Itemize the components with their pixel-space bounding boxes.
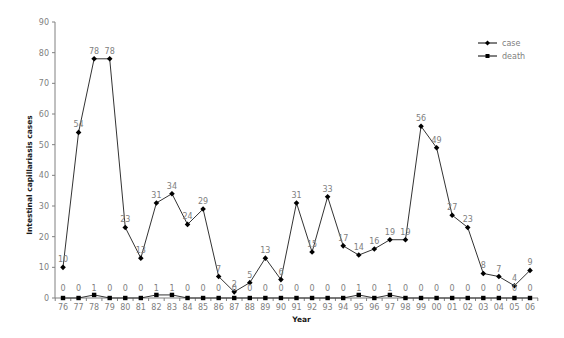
data-point-death [216,296,220,300]
data-point-case [60,265,66,271]
data-point-death [481,296,485,300]
data-point-death [325,296,329,300]
data-label-case: 56 [416,114,426,123]
data-point-death [154,293,158,297]
data-point-death [294,296,298,300]
data-point-case [294,200,300,206]
series-case: 1054787823133134242972513631153317141619… [58,47,533,295]
line-chart: 0102030405060708090 76777879808182838485… [0,0,564,338]
data-label-death: 0 [496,284,501,293]
x-tick-label: 94 [338,303,348,312]
y-axis-title: Intestinal capillariasis cases [25,115,34,235]
data-point-death [185,296,189,300]
x-tick-label: 98 [400,303,410,312]
data-label-death: 1 [356,284,361,293]
square-marker-icon [486,54,490,58]
series-death: 0010001100000000000101000000000 [60,284,532,300]
data-point-death [528,296,532,300]
x-tick-label: 80 [120,303,130,312]
x-tick-label: 01 [447,303,457,312]
data-label-case: 29 [198,197,208,206]
data-label-death: 0 [107,284,112,293]
x-tick-label: 83 [167,303,177,312]
x-tick-label: 04 [494,303,504,312]
data-point-death [232,296,236,300]
data-label-death: 0 [325,284,330,293]
data-point-death [434,296,438,300]
data-label-case: 23 [120,215,130,224]
data-label-case: 15 [307,240,317,249]
data-label-case: 7 [496,265,501,274]
x-tick-label: 77 [73,303,83,312]
y-tick-label: 70 [39,79,49,88]
data-point-death [61,296,65,300]
data-label-case: 13 [136,246,146,255]
data-point-death [341,296,345,300]
data-point-death [310,296,314,300]
data-point-death [92,293,96,297]
data-label-death: 1 [154,284,159,293]
data-point-case [169,191,175,197]
series-line-case [63,59,530,292]
data-point-death [123,296,127,300]
x-tick-label: 87 [229,303,239,312]
data-point-death [372,296,376,300]
x-tick-label: 05 [509,303,519,312]
data-label-death: 0 [263,284,268,293]
data-point-death [279,296,283,300]
data-point-case [403,237,409,243]
data-label-case: 19 [385,228,395,237]
data-label-death: 1 [92,284,97,293]
data-point-death [357,293,361,297]
x-tick-label: 95 [354,303,364,312]
data-point-death [466,296,470,300]
data-point-case [91,56,97,62]
data-label-death: 0 [450,284,455,293]
data-point-case [340,243,346,249]
data-point-case [481,271,487,277]
x-tick-label: 89 [260,303,270,312]
data-label-case: 23 [463,215,473,224]
diamond-marker-icon [485,41,490,46]
data-point-death [403,296,407,300]
x-tick-label: 90 [276,303,286,312]
x-tick-label: 91 [291,303,301,312]
data-label-death: 0 [481,284,486,293]
data-label-death: 0 [247,284,252,293]
data-point-case [325,194,331,200]
data-label-case: 24 [182,212,192,221]
x-tick-label: 97 [385,303,395,312]
data-label-death: 0 [294,284,299,293]
data-point-case [387,237,393,243]
data-label-case: 16 [369,237,379,246]
y-tick-label: 30 [39,202,49,211]
x-tick-label: 82 [151,303,161,312]
data-label-death: 0 [76,284,81,293]
data-point-case [107,56,113,62]
data-label-case: 31 [151,191,161,200]
data-label-case: 14 [354,243,364,252]
y-tick-label: 80 [39,49,49,58]
x-tick-label: 78 [89,303,99,312]
data-label-death: 0 [138,284,143,293]
x-tick-label: 93 [323,303,333,312]
data-point-death [76,296,80,300]
x-tick-label: 03 [478,303,488,312]
data-label-death: 1 [387,284,392,293]
data-label-death: 0 [201,284,206,293]
data-label-case: 27 [447,203,457,212]
data-label-death: 1 [169,284,174,293]
legend-item-death: death [478,52,525,61]
data-label-death: 0 [403,284,408,293]
data-label-case: 54 [73,120,83,129]
data-point-case [356,252,362,258]
legend-label-case: case [502,39,520,48]
x-tick-label: 76 [58,303,68,312]
x-tick-label: 81 [136,303,146,312]
x-tick-label: 00 [432,303,442,312]
data-label-case: 4 [512,274,517,283]
x-tick-label: 02 [463,303,473,312]
data-point-death [201,296,205,300]
data-point-case [372,246,378,252]
data-label-death: 0 [341,284,346,293]
